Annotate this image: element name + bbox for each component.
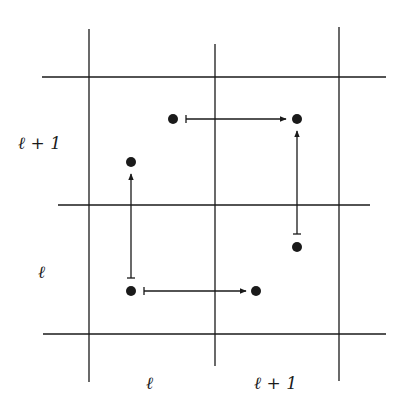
row-label: ℓ	[38, 262, 45, 282]
grid-lines	[42, 27, 386, 382]
point	[126, 286, 136, 296]
mapping-diagram: ℓ + 1ℓℓℓ + 1	[0, 0, 410, 413]
row-label: ℓ + 1	[18, 133, 61, 153]
column-label: ℓ + 1	[254, 373, 297, 393]
point	[168, 114, 178, 124]
axis-labels: ℓ + 1ℓℓℓ + 1	[18, 133, 297, 393]
column-label: ℓ	[146, 373, 153, 393]
point	[292, 242, 302, 252]
point	[126, 157, 136, 167]
point	[292, 114, 302, 124]
point	[251, 286, 261, 296]
